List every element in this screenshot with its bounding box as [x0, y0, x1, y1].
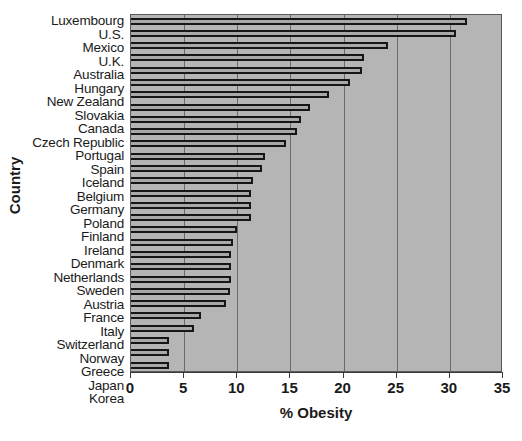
bar-row [131, 347, 501, 359]
bar [131, 214, 251, 221]
bar-row [131, 126, 501, 138]
bar-row [131, 310, 501, 322]
bar-row [131, 40, 501, 52]
bar [131, 128, 297, 135]
x-axis-tick-label: 5 [179, 380, 187, 395]
category-label: Denmark [24, 257, 128, 271]
bar [131, 153, 265, 160]
bar-row [131, 138, 501, 150]
bar [131, 54, 364, 61]
bar-row [131, 15, 501, 27]
bar-row [131, 273, 501, 285]
bar-row [131, 162, 501, 174]
category-label: New Zealand [24, 95, 128, 109]
category-label: Norway [24, 352, 128, 366]
bar-row [131, 297, 501, 309]
bar-row [131, 27, 501, 39]
category-label: Italy [24, 325, 128, 339]
x-axis-ticks [130, 372, 502, 378]
x-axis-tick [502, 372, 503, 378]
category-label: Iceland [24, 176, 128, 190]
x-axis-tick [449, 372, 450, 378]
bar-row [131, 76, 501, 88]
x-axis-tick [236, 372, 237, 378]
bar [131, 251, 231, 258]
bar [131, 226, 237, 233]
bar [131, 91, 329, 98]
bar [131, 276, 231, 283]
x-axis-tick-label: 35 [494, 380, 511, 395]
x-axis-tick [396, 372, 397, 378]
bar [131, 104, 310, 111]
bar [131, 165, 262, 172]
bar-row [131, 175, 501, 187]
bar [131, 190, 251, 197]
bar [131, 312, 201, 319]
category-label: Switzerland [24, 338, 128, 352]
category-label: Australia [24, 68, 128, 82]
category-label: Ireland [24, 244, 128, 258]
bar-row [131, 212, 501, 224]
x-axis-tick [289, 372, 290, 378]
category-label: Korea [24, 392, 128, 406]
bar [131, 30, 456, 37]
category-axis-labels: LuxembourgU.S.MexicoU.K.AustraliaHungary… [24, 14, 128, 372]
bar-row [131, 52, 501, 64]
bar [131, 67, 362, 74]
x-axis-tick-label: 25 [387, 380, 404, 395]
bar [131, 79, 350, 86]
x-axis-tick-label: 10 [228, 380, 245, 395]
x-axis-tick-label: 30 [441, 380, 458, 395]
bar-series [131, 15, 501, 371]
category-label: Sweden [24, 284, 128, 298]
category-label: Belgium [24, 190, 128, 204]
category-label: Luxembourg [24, 14, 128, 28]
category-label: U.S. [24, 28, 128, 42]
bar [131, 362, 169, 369]
category-label: Canada [24, 122, 128, 136]
bar-row [131, 187, 501, 199]
category-label: Czech Republic [24, 136, 128, 150]
bar [131, 337, 169, 344]
category-label: France [24, 311, 128, 325]
category-label: Spain [24, 163, 128, 177]
category-label: Mexico [24, 41, 128, 55]
bar-row [131, 199, 501, 211]
category-label: Slovakia [24, 109, 128, 123]
category-label: Japan [24, 379, 128, 393]
x-axis-tick-label: 0 [126, 380, 134, 395]
bar-row [131, 101, 501, 113]
bar-row [131, 322, 501, 334]
category-label: Greece [24, 365, 128, 379]
y-axis-title-text: Country [7, 156, 24, 214]
x-axis-title: % Obesity [130, 404, 502, 421]
x-axis-tick [183, 372, 184, 378]
bar [131, 202, 251, 209]
plot-area [130, 14, 502, 372]
category-label: Hungary [24, 82, 128, 96]
x-axis-tick [343, 372, 344, 378]
bar-row [131, 64, 501, 76]
category-label: U.K. [24, 55, 128, 69]
bar-row [131, 285, 501, 297]
bar-row [131, 261, 501, 273]
bar [131, 349, 169, 356]
x-axis-tick-label: 15 [281, 380, 298, 395]
category-label: Poland [24, 217, 128, 231]
bar [131, 177, 253, 184]
x-axis-tick-labels: 05101520253035 [130, 380, 502, 400]
bar [131, 140, 286, 147]
bar-row [131, 224, 501, 236]
category-label: Finland [24, 230, 128, 244]
bar-row [131, 359, 501, 371]
category-label: Portugal [24, 149, 128, 163]
category-label: Germany [24, 203, 128, 217]
bar [131, 325, 194, 332]
bar-row [131, 334, 501, 346]
bar [131, 288, 230, 295]
bar [131, 263, 231, 270]
bar-row [131, 248, 501, 260]
bar-row [131, 236, 501, 248]
bar [131, 42, 388, 49]
bar [131, 18, 467, 25]
